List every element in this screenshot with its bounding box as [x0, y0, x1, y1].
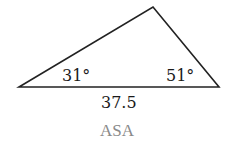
angle-right-label: 51°: [166, 68, 194, 84]
angle-left-label: 31°: [62, 68, 90, 84]
caption: ASA: [100, 122, 134, 139]
side-length-label: 37.5: [101, 95, 137, 111]
